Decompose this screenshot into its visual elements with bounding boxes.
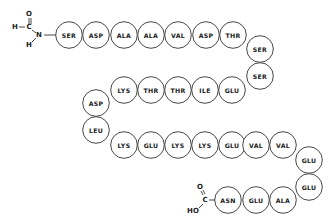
- double-bond: [201, 191, 203, 195]
- residue-label: ALA: [276, 197, 290, 204]
- residue-label: GLU: [302, 184, 317, 191]
- residue-glu: GLU: [243, 187, 270, 214]
- residue-label: VAL: [171, 32, 185, 39]
- residue-label: ALA: [144, 32, 158, 39]
- atom-o: O: [26, 10, 32, 18]
- residue-glu: GLU: [219, 132, 246, 159]
- residue-ala: ALA: [138, 22, 165, 49]
- residue-label: GLU: [225, 142, 240, 149]
- residue-val: VAL: [270, 132, 297, 159]
- residue-label: ASN: [220, 197, 235, 204]
- residue-lys: LYS: [111, 77, 138, 104]
- residue-ser: SER: [247, 63, 274, 90]
- residue-label: ASP: [89, 32, 104, 39]
- residue-label: GLU: [225, 87, 240, 94]
- residue-glu: GLU: [219, 77, 246, 104]
- residue-label: VAL: [249, 142, 263, 149]
- residue-lys: LYS: [192, 132, 219, 159]
- double-bond: [203, 190, 205, 194]
- residue-label: GLU: [144, 142, 159, 149]
- atom-h: H: [26, 41, 32, 49]
- residue-thr: THR: [165, 77, 192, 104]
- residue-label: LYS: [118, 142, 131, 149]
- residue-glu: GLU: [296, 147, 323, 174]
- residue-lys: LYS: [111, 132, 138, 159]
- residue-label: SER: [253, 46, 267, 53]
- atom-ho: HO: [187, 207, 199, 215]
- residue-glu: GLU: [138, 132, 165, 159]
- residue-label: SER: [253, 73, 267, 80]
- atom-o: O: [197, 183, 203, 191]
- atom-c: C: [26, 23, 31, 31]
- residue-label: LYS: [118, 87, 131, 94]
- c-terminus-carboxyl-group: O C HO: [187, 183, 215, 215]
- residue-label: GLU: [302, 157, 317, 164]
- residue-label: GLU: [249, 197, 264, 204]
- residue-label: LEU: [89, 127, 103, 134]
- residue-leu: LEU: [83, 117, 110, 144]
- residue-label: LYS: [199, 142, 212, 149]
- residue-val: VAL: [165, 22, 192, 49]
- residue-label: ASP: [199, 32, 214, 39]
- residue-label: ALA: [117, 32, 131, 39]
- residue-label: THR: [225, 32, 240, 39]
- residue-asp: ASP: [83, 90, 110, 117]
- peptide-chain-diagram: O H C N H SERASPALAALAVALASPTHRSERSERGLU…: [0, 0, 332, 223]
- bond: [32, 38, 36, 42]
- residue-asn: ASN: [215, 187, 242, 214]
- residue-label: THR: [170, 87, 185, 94]
- n-terminus-formyl-group: O H C N H: [12, 10, 56, 49]
- residue-label: SER: [62, 32, 76, 39]
- residue-label: ILE: [199, 87, 210, 94]
- atom-c: C: [202, 196, 207, 204]
- residue-ile: ILE: [192, 77, 219, 104]
- residue-thr: THR: [220, 22, 247, 49]
- residue-asp: ASP: [193, 22, 220, 49]
- residue-thr: THR: [138, 77, 165, 104]
- residue-ser: SER: [247, 36, 274, 63]
- residue-label: VAL: [276, 142, 290, 149]
- residue-asp: ASP: [83, 22, 110, 49]
- atom-n: N: [36, 31, 42, 39]
- residue-glu: GLU: [296, 174, 323, 201]
- residue-ala: ALA: [270, 187, 297, 214]
- residue-lys: LYS: [165, 132, 192, 159]
- residue-label: ASP: [89, 100, 104, 107]
- bond: [199, 204, 203, 208]
- residue-label: LYS: [172, 142, 185, 149]
- atom-h: H: [12, 23, 18, 31]
- residue-val: VAL: [243, 132, 270, 159]
- residue-ala: ALA: [111, 22, 138, 49]
- residue-ser: SER: [56, 22, 83, 49]
- residue-label: THR: [143, 87, 158, 94]
